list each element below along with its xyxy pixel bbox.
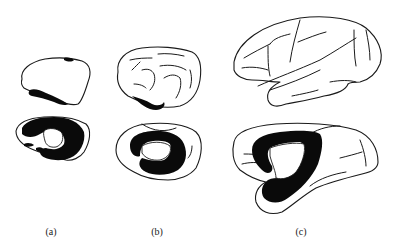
panel-b-label: (b) <box>142 226 172 237</box>
panel-b-medial-brain <box>116 123 201 180</box>
panel-c-label: (c) <box>286 226 316 237</box>
panel-a-medial-brain <box>16 117 90 160</box>
panel-a-label: (a) <box>36 226 66 237</box>
panel-c-medial-brain <box>233 123 378 213</box>
panel-b-lateral-brain <box>117 47 200 110</box>
panel-c-lateral-brain <box>234 17 381 106</box>
panel-a-lateral-brain <box>21 58 90 105</box>
